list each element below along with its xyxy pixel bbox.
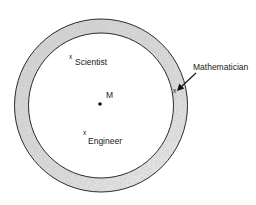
engineer-label: Engineer — [88, 136, 122, 146]
center-dot — [98, 102, 102, 106]
diagram-canvas: M x Scientist x x Engineer x Mathematici… — [0, 0, 256, 205]
scientist-label: Scientist — [75, 57, 108, 67]
mathematician-label: Mathematician — [193, 62, 249, 72]
boundary-ring-shading — [0, 0, 256, 205]
center-label: M — [106, 90, 113, 100]
